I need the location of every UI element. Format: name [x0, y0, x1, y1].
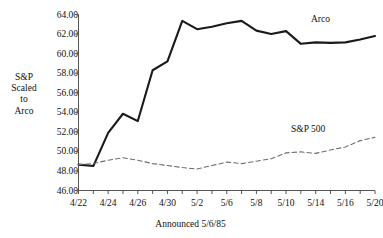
series-line-s-p-500 — [79, 137, 376, 169]
series-label-sp500: S&P 500 — [291, 124, 325, 134]
series-line-arco — [79, 21, 376, 166]
series-label-arco: Arco — [311, 14, 330, 24]
x-axis-title: Announced 5/6/85 — [0, 219, 381, 229]
